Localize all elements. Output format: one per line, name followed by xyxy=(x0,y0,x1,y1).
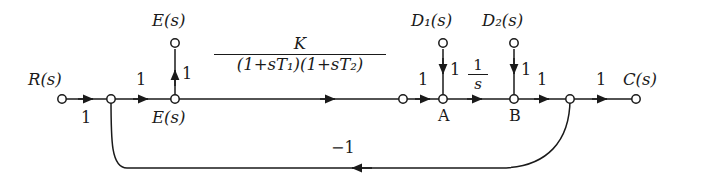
signal-flow-graph-diagram: R(s) E(s) E(s) D₁(s) D₂(s) C(s) A B 1 1 … xyxy=(0,0,703,184)
label-node-b: B xyxy=(509,108,521,124)
node-input xyxy=(58,95,66,103)
gain-plant-out-to-a: 1 xyxy=(418,72,428,88)
gain-disturbance-2-to-b: 1 xyxy=(521,62,531,78)
integrator-gain-label: 1 s xyxy=(468,58,488,92)
integrator-denominator: s xyxy=(468,75,488,92)
gain-b-to-takeoff: 1 xyxy=(537,72,547,88)
transfer-function-numerator: K xyxy=(214,36,386,54)
transfer-function-label: K (1+sT₁)(1+sT₂) xyxy=(214,36,386,73)
node-error xyxy=(171,95,179,103)
label-output-signal: C(s) xyxy=(623,72,657,89)
node-output xyxy=(632,95,640,103)
node-b xyxy=(510,95,518,103)
gain-summing-to-error: 1 xyxy=(136,72,146,88)
label-reference-signal: R(s) xyxy=(28,72,62,89)
label-node-a: A xyxy=(438,108,450,124)
gain-feedback: −1 xyxy=(331,140,355,156)
label-error-signal-top: E(s) xyxy=(152,13,185,30)
label-disturbance-1: D₁(s) xyxy=(411,13,452,30)
node-disturbance-1 xyxy=(439,39,447,47)
label-error-signal-bottom: E(s) xyxy=(152,110,185,127)
node-a xyxy=(439,95,447,103)
node-plant-out xyxy=(399,95,407,103)
gain-disturbance-1-to-a: 1 xyxy=(450,62,460,78)
transfer-function-denominator: (1+sT₁)(1+sT₂) xyxy=(214,55,386,74)
node-summing xyxy=(107,95,115,103)
label-disturbance-2: D₂(s) xyxy=(482,13,523,30)
node-takeoff xyxy=(566,95,574,103)
gain-input-to-summing: 1 xyxy=(81,110,91,126)
node-disturbance-2 xyxy=(510,39,518,47)
node-error-out xyxy=(171,39,179,47)
gain-takeoff-to-output: 1 xyxy=(596,72,606,88)
integrator-numerator: 1 xyxy=(468,58,488,74)
gain-error-to-error-out: 1 xyxy=(182,66,192,82)
